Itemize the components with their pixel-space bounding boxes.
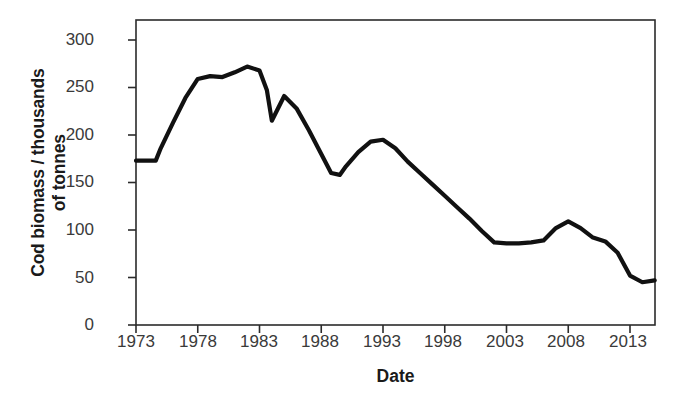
plot-frame — [136, 20, 655, 325]
y-axis-ticks — [128, 40, 136, 325]
chart-figure: Cod biomass / thousands of tonnes 300 25… — [0, 0, 675, 409]
plot-area — [0, 0, 675, 409]
x-axis-ticks — [136, 325, 630, 333]
biomass-line — [136, 67, 655, 283]
